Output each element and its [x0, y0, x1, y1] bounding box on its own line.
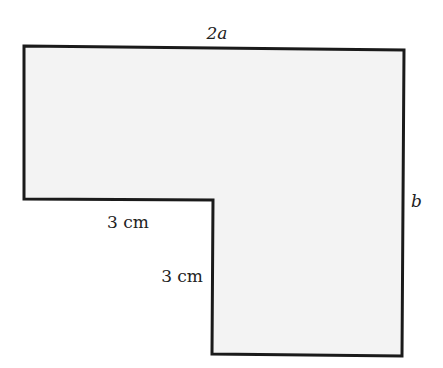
l-shape: [24, 46, 404, 356]
label-inner-horizontal: 3 cm: [107, 212, 149, 232]
label-right-b: b: [411, 191, 422, 211]
label-inner-vertical: 3 cm: [161, 266, 203, 286]
l-shape-diagram: 2a b 3 cm 3 cm: [0, 0, 443, 368]
label-top-2a: 2a: [206, 23, 228, 43]
